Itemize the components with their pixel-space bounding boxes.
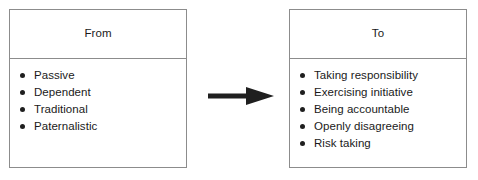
panel-to-body: Taking responsibility Exercising initiat…: [290, 59, 466, 152]
list-item-label: Being accountable: [314, 104, 409, 116]
bullet-icon: [300, 73, 305, 78]
diagram-canvas: From Passive Dependent Traditional P: [0, 0, 478, 180]
panel-from-body: Passive Dependent Traditional Paternalis…: [10, 59, 186, 135]
list-item: Openly disagreeing: [290, 118, 466, 135]
list-item: Exercising initiative: [290, 84, 466, 101]
list-item-label: Risk taking: [314, 138, 371, 150]
list-item-label: Taking responsibility: [314, 70, 418, 82]
bullet-icon: [20, 124, 25, 129]
list-item-label: Passive: [34, 70, 75, 82]
panel-to: To Taking responsibility Exercising init…: [289, 9, 467, 168]
bullet-icon: [20, 90, 25, 95]
list-item: Risk taking: [290, 135, 466, 152]
bullet-icon: [20, 73, 25, 78]
list-item: Being accountable: [290, 101, 466, 118]
list-item-label: Dependent: [34, 87, 91, 99]
list-item: Taking responsibility: [290, 67, 466, 84]
list-item: Traditional: [10, 101, 186, 118]
bullet-icon: [300, 141, 305, 146]
panel-from-header: From: [10, 10, 186, 59]
panel-to-title: To: [372, 28, 384, 40]
list-item: Paternalistic: [10, 118, 186, 135]
bullet-icon: [20, 107, 25, 112]
right-arrow-icon: [206, 82, 276, 110]
panel-from-title: From: [84, 28, 111, 40]
from-item-list: Passive Dependent Traditional Paternalis…: [10, 67, 186, 135]
bullet-icon: [300, 90, 305, 95]
bullet-icon: [300, 107, 305, 112]
list-item-label: Exercising initiative: [314, 87, 413, 99]
to-item-list: Taking responsibility Exercising initiat…: [290, 67, 466, 152]
panel-from: From Passive Dependent Traditional P: [9, 9, 187, 168]
panel-to-header: To: [290, 10, 466, 59]
bullet-icon: [300, 124, 305, 129]
list-item: Passive: [10, 67, 186, 84]
list-item-label: Openly disagreeing: [314, 121, 414, 133]
list-item-label: Paternalistic: [34, 121, 97, 133]
list-item: Dependent: [10, 84, 186, 101]
list-item-label: Traditional: [34, 104, 88, 116]
